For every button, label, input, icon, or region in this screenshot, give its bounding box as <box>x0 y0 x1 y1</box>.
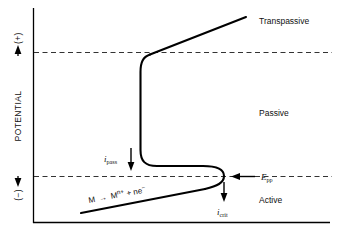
curve-passive-branch <box>141 55 204 167</box>
i-pass-label: ipass <box>104 154 118 165</box>
curve-nose <box>203 166 224 189</box>
curve-transpassive-branch <box>150 17 246 55</box>
e-pp-label: Epp <box>260 172 273 183</box>
e-pp-arrow-head <box>231 173 240 180</box>
region-label-passive: Passive <box>259 108 289 118</box>
polarization-curve-figure: ipass icrit Epp M→Mn+ + ne− Transpas <box>0 0 338 238</box>
y-axis-title: POTENTIAL <box>13 91 23 142</box>
region-label-active: Active <box>259 195 282 205</box>
y-axis-plus-marker: (+) <box>13 32 23 44</box>
diagram-canvas: ipass icrit Epp M→Mn+ + ne− Transpas <box>0 0 338 238</box>
i-pass-arrow-head <box>128 162 135 171</box>
y-axis-minus-marker: (−) <box>13 189 23 201</box>
e-pp-annotation: Epp <box>231 172 273 183</box>
i-crit-annotation: icrit <box>217 182 228 218</box>
y-axis-label-group: (+) POTENTIAL (−) <box>13 32 23 201</box>
i-pass-annotation: ipass <box>104 148 134 171</box>
i-crit-arrow-head <box>221 193 228 202</box>
y-axis-down-arrow-icon <box>15 176 22 187</box>
y-axis-up-arrow-icon <box>15 45 22 56</box>
anodic-polarization-curve <box>81 17 246 213</box>
i-crit-label: icrit <box>217 207 228 218</box>
region-label-transpassive: Transpassive <box>259 16 310 26</box>
